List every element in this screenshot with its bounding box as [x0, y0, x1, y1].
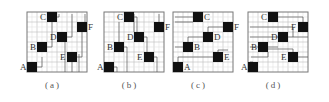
block-label: C	[204, 12, 210, 22]
block-b	[114, 42, 124, 52]
block-label: A	[241, 62, 248, 72]
block-label: D	[271, 32, 278, 42]
block-label: B	[194, 42, 200, 52]
block-label: D	[50, 32, 57, 42]
block-label: E	[224, 52, 230, 62]
block-label: B	[30, 42, 36, 52]
block-f	[298, 22, 308, 32]
panel-caption: (d)	[254, 80, 294, 90]
route-arrow	[114, 67, 117, 72]
block-e	[288, 52, 298, 62]
block-label: A	[184, 62, 191, 72]
block-e	[67, 52, 77, 62]
route-arrow	[251, 52, 268, 57]
routing-grid: CFDBEA	[234, 0, 324, 80]
route-arrow	[134, 17, 137, 32]
block-label: E	[137, 52, 143, 62]
block-c	[47, 12, 57, 22]
block-e	[144, 52, 154, 62]
block-c	[268, 12, 278, 22]
block-a	[104, 62, 114, 72]
block-label: B	[251, 42, 257, 52]
block-c	[193, 12, 203, 22]
block-label: A	[20, 62, 27, 72]
block-d	[57, 32, 67, 42]
route-arrow	[154, 57, 157, 72]
block-label: E	[281, 52, 287, 62]
block-label: F	[291, 22, 296, 32]
block-a	[173, 62, 183, 72]
block-d	[203, 32, 213, 42]
block-f	[77, 22, 87, 32]
block-d	[134, 32, 144, 42]
block-label: D	[214, 32, 221, 42]
route-arrow	[144, 37, 147, 52]
panel-caption: (c)	[179, 80, 219, 90]
block-label: C	[117, 12, 123, 22]
block-label: B	[107, 42, 113, 52]
block-label: D	[127, 32, 134, 42]
panel-a: CFDBEA(a)	[13, 0, 95, 102]
block-a	[27, 62, 37, 72]
block-d	[278, 32, 288, 42]
block-label: C	[40, 12, 46, 22]
block-e	[213, 52, 223, 62]
block-c	[124, 12, 134, 22]
block-b	[183, 42, 193, 52]
block-label: A	[97, 62, 104, 72]
block-b	[37, 42, 47, 52]
block-a	[248, 62, 258, 72]
block-b	[258, 42, 268, 52]
panel-c: CFDBEA(c)	[159, 0, 241, 102]
panel-caption: (a)	[33, 80, 73, 90]
route-arrow	[124, 47, 127, 72]
panel-caption: (b)	[110, 80, 150, 90]
block-label: C	[261, 12, 267, 22]
panel-d: CFDBEA(d)	[234, 0, 316, 102]
block-label: E	[60, 52, 66, 62]
block-f	[223, 22, 233, 32]
